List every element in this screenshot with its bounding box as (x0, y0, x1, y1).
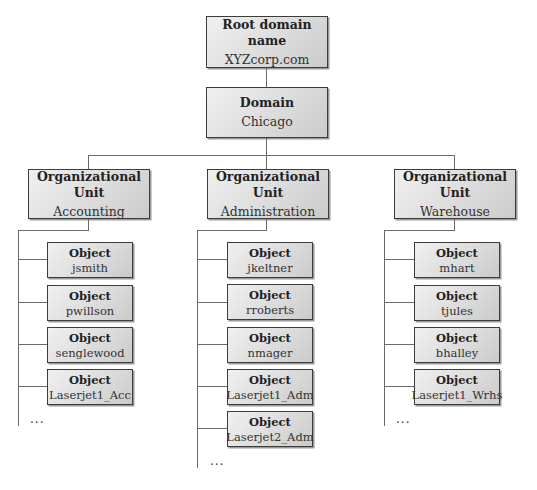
node-title: Domain (240, 95, 294, 111)
connector-branch (197, 344, 227, 345)
node-name: Chicago (241, 113, 293, 130)
node-title: Object (249, 331, 291, 345)
more-ellipsis: ... (396, 412, 410, 426)
object-node: Object Laserjet2_Adm (227, 411, 313, 447)
node-title: Object (69, 289, 111, 303)
node-name: pwillson (66, 304, 114, 318)
connector-accounting-down (88, 219, 89, 230)
domain-node: Domain Chicago (206, 87, 328, 138)
node-name: jsmith (72, 261, 108, 275)
node-name: Laserjet2_Adm (226, 430, 313, 444)
node-title: Object (436, 289, 478, 303)
connector-ou-administration (266, 155, 267, 169)
connector-branch (18, 386, 47, 387)
node-name: Administration (221, 203, 315, 220)
object-node: Object bhalley (414, 327, 500, 363)
node-title: Object (436, 331, 478, 345)
node-name: Accounting (53, 203, 125, 220)
connector-administration-down (266, 219, 267, 230)
object-node: Object senglewood (47, 327, 133, 363)
node-name: rroberts (246, 303, 294, 317)
node-name: XYZcorp.com (225, 51, 310, 68)
node-title: Object (249, 246, 291, 260)
connector-branch (197, 386, 227, 387)
node-title: Object (436, 373, 478, 387)
ou-node-warehouse: Organizational Unit Warehouse (394, 169, 516, 219)
object-node: Object tjules (414, 285, 500, 321)
connector-branch (18, 344, 47, 345)
connector-branch (197, 302, 227, 303)
node-title: Object (69, 246, 111, 260)
node-title: Root domain name (207, 17, 327, 49)
connector-branch (197, 259, 227, 260)
connector-ou-warehouse (454, 155, 455, 169)
node-title: Object (436, 246, 478, 260)
connector-branch (197, 428, 227, 429)
object-node: Object jkeltner (227, 242, 313, 278)
connector-administration-left (197, 230, 267, 231)
node-name: tjules (441, 304, 473, 318)
object-node: Object nmager (227, 327, 313, 363)
node-title: Object (69, 331, 111, 345)
connector-warehouse-down (454, 219, 455, 230)
object-node: Object Laserjet1_Acc (47, 369, 133, 405)
root-domain-node: Root domain name XYZcorp.com (206, 16, 328, 68)
object-node: Object rroberts (227, 284, 313, 320)
connector-warehouse-left (384, 230, 455, 231)
connector-branch (384, 386, 414, 387)
connector-branch (384, 302, 414, 303)
node-title: Organizational Unit (395, 169, 515, 201)
node-name: senglewood (55, 346, 124, 360)
connector-domain-down (266, 138, 267, 155)
connector-accounting-left (18, 230, 89, 231)
node-name: Laserjet1_Wrhs (412, 388, 503, 402)
more-ellipsis: ... (210, 454, 224, 468)
node-title: Object (249, 373, 291, 387)
connector-branch (384, 344, 414, 345)
node-title: Object (249, 415, 291, 429)
more-ellipsis: ... (30, 412, 44, 426)
connector-administration-trunk (197, 230, 198, 468)
connector-branch (18, 302, 47, 303)
node-title: Organizational Unit (29, 169, 149, 201)
node-name: Laserjet1_Adm (226, 388, 313, 402)
node-name: jkeltner (247, 261, 292, 275)
ou-node-administration: Organizational Unit Administration (207, 169, 329, 219)
node-title: Object (249, 288, 291, 302)
ou-node-accounting: Organizational Unit Accounting (28, 169, 150, 219)
object-node: Object pwillson (47, 285, 133, 321)
node-title: Organizational Unit (208, 169, 328, 201)
node-name: Laserjet1_Acc (49, 388, 131, 402)
connector-ou-horizontal (88, 155, 455, 156)
node-name: mhart (439, 261, 474, 275)
connector-ou-accounting (88, 155, 89, 169)
connector-branch (384, 259, 414, 260)
object-node: Object jsmith (47, 242, 133, 278)
object-node: Object Laserjet1_Adm (227, 369, 313, 405)
node-name: bhalley (436, 346, 478, 360)
connector-root-domain (266, 68, 267, 87)
connector-branch (18, 259, 47, 260)
object-node: Object mhart (414, 242, 500, 278)
node-name: Warehouse (420, 203, 490, 220)
object-node: Object Laserjet1_Wrhs (414, 369, 500, 405)
node-name: nmager (248, 346, 293, 360)
node-title: Object (69, 373, 111, 387)
